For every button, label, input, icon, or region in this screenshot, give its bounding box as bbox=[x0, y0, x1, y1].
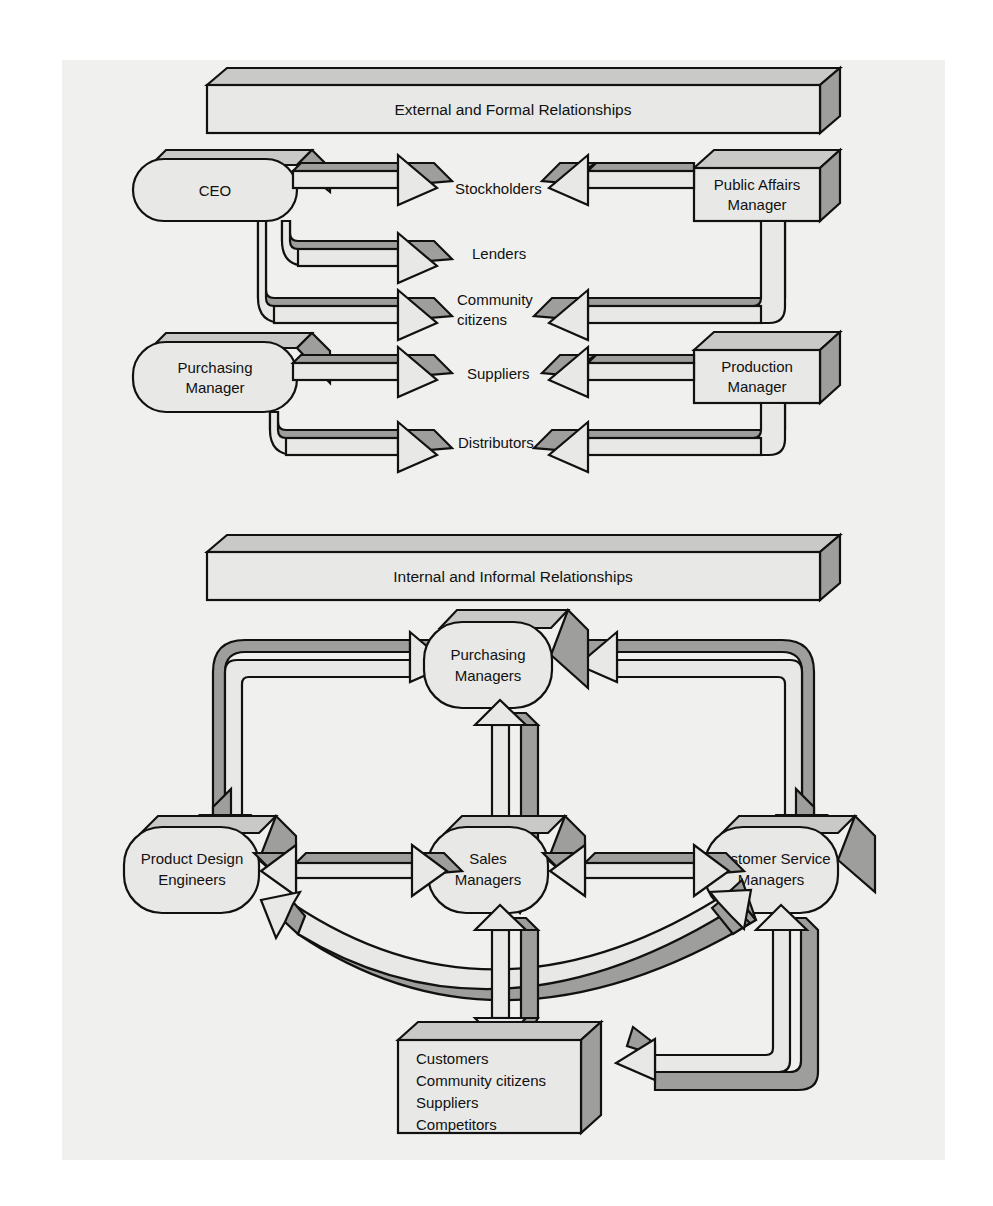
node-purchasing-managers-label-2: Managers bbox=[455, 667, 522, 684]
flow-publicaffairs-stockholders bbox=[542, 155, 694, 205]
stakeholders-line-1: Customers bbox=[416, 1050, 489, 1067]
node-production-label-1: Production bbox=[721, 358, 793, 375]
flow-purchasing-suppliers bbox=[293, 347, 452, 397]
node-pde-label-1: Product Design bbox=[141, 850, 244, 867]
diagram-canvas: .lt { fill:#e8e8e6; stroke:#111; stroke-… bbox=[0, 0, 993, 1206]
node-production-label-2: Manager bbox=[727, 378, 786, 395]
node-public-affairs-label-1: Public Affairs bbox=[714, 176, 800, 193]
stakeholders-line-3: Suppliers bbox=[416, 1094, 479, 1111]
center-label-community-1: Community bbox=[457, 291, 533, 308]
stakeholders-line-2: Community citizens bbox=[416, 1072, 546, 1089]
center-label-community-2: citizens bbox=[457, 311, 507, 328]
node-purchasing-managers-label-1: Purchasing bbox=[450, 646, 525, 663]
figure-root: .lt { fill:#e8e8e6; stroke:#111; stroke-… bbox=[0, 0, 993, 1206]
center-label-distributors: Distributors bbox=[458, 434, 534, 451]
center-label-suppliers: Suppliers bbox=[467, 365, 530, 382]
flow-ceo-lenders bbox=[282, 221, 452, 283]
node-public-affairs-label-2: Manager bbox=[727, 196, 786, 213]
flow-production-distributors bbox=[534, 403, 785, 472]
center-label-stockholders: Stockholders bbox=[455, 180, 542, 197]
node-ceo-label: CEO bbox=[199, 182, 232, 199]
flow-purchasing-distributors bbox=[270, 412, 452, 472]
node-purchasing-manager-label-1: Purchasing bbox=[177, 359, 252, 376]
node-sales-label-2: Managers bbox=[455, 871, 522, 888]
flow-production-suppliers bbox=[542, 347, 694, 397]
flow-ceo-stockholders bbox=[293, 155, 452, 205]
node-pde-label-2: Engineers bbox=[158, 871, 226, 888]
top-band-label: External and Formal Relationships bbox=[395, 101, 632, 118]
center-label-lenders: Lenders bbox=[472, 245, 526, 262]
node-purchasing-manager-label-2: Manager bbox=[185, 379, 244, 396]
stakeholders-line-4: Competitors bbox=[416, 1116, 497, 1133]
node-sales-label-1: Sales bbox=[469, 850, 507, 867]
node-csm-label-2: Managers bbox=[738, 871, 805, 888]
bottom-band-label: Internal and Informal Relationships bbox=[393, 568, 633, 585]
flow-publicaffairs-community bbox=[534, 221, 785, 340]
